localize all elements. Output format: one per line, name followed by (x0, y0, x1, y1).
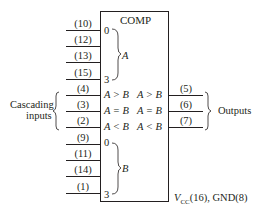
brace-b (112, 143, 121, 194)
brace-a (112, 29, 121, 80)
brace-cascading (53, 92, 59, 130)
brace-outputs (205, 92, 211, 130)
braces-layer (0, 0, 259, 215)
